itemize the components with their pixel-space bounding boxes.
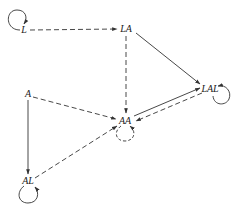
edge-L-to-LA [30,29,117,30]
edge-LAL-to-AA [136,93,202,121]
self-loop-AA [116,126,134,141]
node-L: L [21,25,27,35]
node-AA: AA [119,116,131,126]
node-AL: AL [22,176,34,186]
edge-A-to-AA [33,97,116,119]
node-A: A [25,89,31,99]
node-LA: LA [120,24,132,34]
state-diagram: L LA A LAL AA AL [0,0,248,209]
edge-AL-to-AA [35,126,117,178]
self-loop-AL [19,186,38,203]
edge-LA-to-LAL [136,33,200,84]
edge-AA-to-LAL [134,88,200,116]
node-LAL: LAL [201,84,218,94]
